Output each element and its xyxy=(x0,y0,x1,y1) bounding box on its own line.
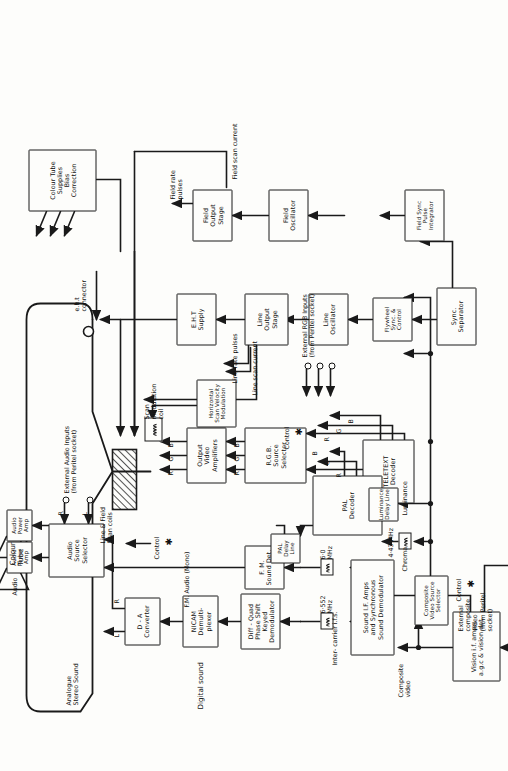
socket-terminal-audio-r xyxy=(62,496,69,503)
block-output-video-amplifiers: Output Video Amplifiers xyxy=(186,427,226,483)
block-diff-quad-demodulator: Diff - Quad Phase Shift Keyed Demodulato… xyxy=(240,593,280,649)
block-da-converter: D - A Converter xyxy=(124,597,160,645)
block-field-sync-pulse-integrator: Field Sync Pulse Integrator xyxy=(404,189,444,241)
label-chroma: Chroma xyxy=(400,546,407,571)
diagram-page: UHF Tuner R.F. Amp. Mixer/Local Osc. SAW… xyxy=(0,0,508,771)
socket-terminal-rgb-g xyxy=(316,362,323,369)
label-eht-connector: e.h.t connector xyxy=(72,279,86,311)
block-eht-supply: E.H.T Supply xyxy=(176,293,216,345)
block-horizontal-scan-velocity-modulation: Horizontal Scan Velocity Modulation xyxy=(196,379,236,427)
label-teletext-r: R xyxy=(322,437,329,441)
label-composite-video: Composite video xyxy=(396,663,410,697)
label-line-rate-pulses: Line rate pulses xyxy=(230,333,237,383)
diagram-canvas: UHF Tuner R.F. Amp. Mixer/Local Osc. SAW… xyxy=(0,0,508,771)
label-external-rgb-inputs: External RGB Inputs (from Peritel socket… xyxy=(300,293,314,357)
block-colour-tube-supplies: Colour Tube Supplies Bias Correction xyxy=(28,149,96,211)
label-external-audio-inputs: External Audio Inputs (from Peritel sock… xyxy=(62,425,76,493)
block-pal-delay-line: PAL Delay Line xyxy=(270,533,300,563)
label-inter-carrier-ifs: Inter- carrier i.f.s. xyxy=(330,611,337,665)
control-asterisk-rgb: ✱ xyxy=(294,427,303,435)
label-field-rate-pulses: Field rate pulses xyxy=(168,170,182,199)
label-rgb-in-r: R xyxy=(334,473,341,477)
label-audio-r: R xyxy=(112,599,119,603)
label-freq-60: 6·0 MHz xyxy=(318,546,332,559)
block-flywheel-sync-control: Flywheel Sync. & Control xyxy=(372,297,412,341)
label-luminance: Luminance xyxy=(400,481,407,515)
block-audio-power-amp-right: Audio Power Amp xyxy=(6,509,32,541)
label-control-video: Control xyxy=(454,578,461,601)
label-rgb-out-r: R xyxy=(232,471,239,475)
socket-terminal-rgb-r xyxy=(304,362,311,369)
label-line-scan-current: Line scan current xyxy=(250,341,257,395)
label-teletext-g: G xyxy=(334,428,341,433)
block-line-output-stage: Line Output Stage xyxy=(244,293,288,345)
block-field-output-stage: Field Output Stage xyxy=(192,189,232,241)
control-asterisk-audio: ✱ xyxy=(164,537,173,545)
label-rgb-out-g: G xyxy=(232,456,239,461)
label-scan-modulation-coil: Scan modulation coil xyxy=(142,383,164,419)
label-crt-g: G xyxy=(166,456,173,461)
filter-60 xyxy=(320,558,333,575)
label-teletext-b: B xyxy=(346,419,353,423)
label-control-audio: Control xyxy=(152,536,159,559)
coil-icon xyxy=(150,422,157,436)
label-colour-tube: Colour Tube xyxy=(8,542,24,565)
scan-modulation-coil-box xyxy=(144,417,162,441)
block-luminance-delay-line: Luminance Delay Line xyxy=(368,487,398,521)
block-composite-video-source-selector: Composite Video Source Selector xyxy=(414,575,448,625)
label-audio-caption: Audio xyxy=(10,577,17,595)
socket-terminal-rgb-b xyxy=(328,362,335,369)
label-rgb-in-b: B xyxy=(310,451,317,455)
control-asterisk-video: ✱ xyxy=(466,579,475,587)
label-digital-sound: Digital sound xyxy=(196,662,204,709)
label-field-scan-current: Field scan current xyxy=(230,123,237,179)
label-crt-r: R xyxy=(166,471,173,475)
label-ext-audio-l: L xyxy=(80,511,87,515)
label-freq-6552: 6·552 MHz xyxy=(318,595,332,613)
block-sound-if: Sound I.F. Amps and Synchronous Sound De… xyxy=(350,559,394,655)
label-control-rgb: Control xyxy=(282,426,289,449)
block-sync-separator: Sync. Separator xyxy=(436,287,476,345)
label-rgb-out-b: B xyxy=(232,443,239,447)
label-line-field-scan-coils: Line & Field Scan coils xyxy=(98,506,112,543)
block-field-oscillator: Field Oscillator xyxy=(268,189,308,241)
block-audio-source-selector: Audio Source Selector xyxy=(48,523,104,577)
socket-terminal-audio-l xyxy=(86,496,93,503)
label-analogue-stereo-sound: Analogue Stereo Sound xyxy=(64,663,78,705)
label-rgb-in-g: G xyxy=(322,460,329,465)
label-audio-l: L xyxy=(112,633,119,637)
label-fm-audio-mono: F.M. Audio (Mono) xyxy=(182,551,189,607)
label-chroma-freq: 4·43 MHz xyxy=(386,528,393,558)
label-crt-b: B xyxy=(166,443,173,447)
label-ext-audio-r: R xyxy=(56,511,63,515)
